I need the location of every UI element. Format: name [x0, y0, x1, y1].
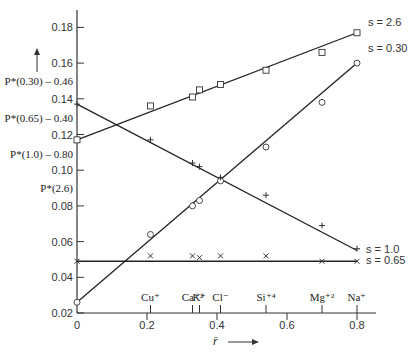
data-point-circle [148, 231, 154, 237]
y-tick-label: 0.10 [52, 164, 73, 176]
x-tick-label: 0 [74, 319, 80, 331]
chart: 0.020.040.060.080.100.120.140.160.1800.2… [0, 0, 414, 354]
x-axis-arrow-icon [252, 339, 259, 345]
ion-label: K⁺ [193, 291, 207, 303]
y-annotation: P*(0.65) – 0.40 [5, 112, 74, 125]
data-point-square [197, 87, 203, 93]
series-line [77, 63, 357, 302]
series-markers [74, 30, 360, 306]
ion-label: Si⁺⁴ [256, 291, 275, 303]
data-point-circle [263, 144, 269, 150]
y-annotation: P*(0.30) – 0.46 [5, 75, 74, 88]
y-tick-label: 0.18 [52, 21, 73, 33]
y-tick-label: 0.02 [52, 307, 73, 319]
y-axis-arrow [34, 48, 40, 72]
y-tick-label: 0.16 [52, 57, 73, 69]
x-axis-label: r̄ [213, 334, 218, 348]
series-lines [77, 33, 357, 303]
series-labels: s = 2.6 s = 0.30 s = 1.0 s = 0.65 [366, 16, 407, 266]
data-point-plus [354, 246, 360, 252]
data-point-square [319, 49, 325, 55]
data-point-square [74, 137, 80, 143]
x-tick-label: 0.4 [209, 319, 224, 331]
data-point-plus [263, 192, 269, 198]
series-label-s-0-30: s = 0.30 [368, 42, 407, 54]
data-point-circle [197, 198, 203, 204]
data-point-x [264, 253, 269, 258]
ion-label: Mg⁺² [310, 291, 335, 303]
y-tick-label: 0.04 [52, 271, 73, 283]
data-point-square [354, 30, 360, 36]
data-point-square [148, 103, 154, 109]
data-point-plus [74, 101, 80, 107]
y-tick-label: 0.06 [52, 236, 73, 248]
y-annotation: P*(1.0) – 0.80 [10, 148, 73, 161]
series-line [77, 33, 357, 140]
y-tick-label: 0.08 [52, 200, 73, 212]
y-tick-label: 0.12 [52, 129, 73, 141]
data-point-square [190, 94, 196, 100]
x-tick-label: 0.2 [139, 319, 154, 331]
data-point-x [190, 253, 195, 258]
ion-label: Cu⁺ [141, 291, 160, 303]
data-point-circle [354, 60, 360, 66]
ion-label: Na⁺ [348, 291, 367, 303]
x-tick-label: 0.6 [279, 319, 294, 331]
x-axis-title: r̄ [213, 334, 259, 348]
y-annotation: P*(2.6) [40, 182, 73, 195]
data-point-circle [74, 299, 80, 305]
series-label-s-2-6: s = 2.6 [368, 16, 401, 28]
data-point-x [197, 255, 202, 260]
series-label-s-0-65: s = 0.65 [366, 254, 405, 266]
data-point-square [263, 67, 269, 73]
y-tick-label: 0.14 [52, 93, 73, 105]
x-tick-label: 0.8 [349, 319, 364, 331]
data-point-x [148, 253, 153, 258]
y-axis-arrow-icon [34, 48, 40, 55]
ion-label: Cl⁻ [212, 291, 228, 303]
data-point-square [218, 82, 224, 88]
data-point-circle [190, 203, 196, 209]
data-point-x [218, 253, 223, 258]
data-point-circle [319, 99, 325, 105]
series-line [77, 104, 357, 250]
data-point-plus [319, 223, 325, 229]
